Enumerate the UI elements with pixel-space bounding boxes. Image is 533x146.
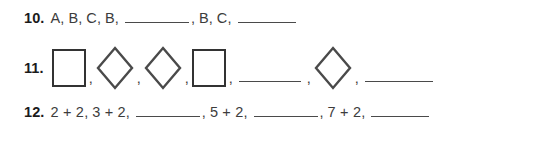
square-shape [192,49,226,87]
comma-separator: , [84,104,88,120]
answer-blank[interactable] [125,21,189,23]
answer-blank[interactable] [371,115,429,117]
answer-blank[interactable] [239,80,301,82]
comma-separator: , [60,10,64,26]
problem-12-number: 12. [24,104,44,120]
problem-11: 11. , , , , , , [24,46,436,90]
problem-11-sequence: , , , , , , [52,46,436,90]
comma-separator: , [185,70,189,90]
sequence-item-text: A [50,10,60,26]
comma-separator: , [115,10,119,26]
diamond-shape [96,46,134,90]
sequence-item-text: C [86,10,97,26]
comma-separator: , [355,70,359,90]
answer-blank[interactable] [254,115,318,117]
comma-separator: , [78,10,82,26]
diamond-shape [314,46,352,90]
comma-separator: , [89,70,93,90]
sequence-item-expression: 5 + 2 [210,104,244,120]
comma-separator: , [97,10,101,26]
comma-separator: , [137,70,141,90]
comma-separator: , [361,104,365,120]
sequence-item-text: B [199,10,209,26]
sequence-item-text: B [105,10,115,26]
problem-10-number: 10. [24,10,44,26]
problem-12-sequence: 2 + 2 , 3 + 2 , , 5 + 2 , , 7 + 2 , [50,104,431,120]
answer-blank[interactable] [136,115,200,117]
comma-separator: , [209,10,213,26]
comma-separator: , [126,104,130,120]
worksheet-page: 10. A , B , C , B , , B , C , 11. , [0,0,533,146]
diamond-shape [144,46,182,90]
comma-separator: , [202,104,206,120]
problem-12: 12. 2 + 2 , 3 + 2 , , 5 + 2 , , 7 + 2 , [24,104,431,120]
sequence-item-text: C [217,10,228,26]
sequence-item-expression: 3 + 2 [92,104,126,120]
comma-separator: , [229,70,233,90]
comma-separator: , [191,10,195,26]
answer-blank[interactable] [238,21,296,23]
comma-separator: , [307,70,311,90]
sequence-item-expression: 7 + 2 [328,104,362,120]
square-shape [52,49,86,87]
answer-blank[interactable] [365,80,433,82]
comma-separator: , [320,104,324,120]
sequence-item-text: B [68,10,78,26]
problem-10: 10. A , B , C , B , , B , C , [24,10,298,26]
sequence-item-expression: 2 + 2 [50,104,84,120]
problem-11-number: 11. [24,60,44,76]
problem-10-sequence: A , B , C , B , , B , C , [50,10,297,26]
comma-separator: , [244,104,248,120]
comma-separator: , [228,10,232,26]
